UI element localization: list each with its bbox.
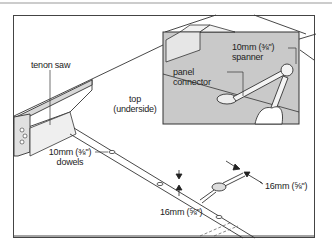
top-label-line2: (underside) — [105, 104, 165, 114]
top-label: top (underside) — [105, 94, 165, 114]
dimension-right-label: 16mm (⅝") — [265, 181, 307, 191]
panel-connector-label-line2: connector — [173, 77, 211, 87]
tenon-saw-label: tenon saw — [31, 60, 70, 70]
dimension-left-label: 16mm (⅝") — [160, 207, 202, 217]
dowels-label-line1: 10mm (⅜") — [44, 147, 96, 157]
spanner-label-line2: spanner — [232, 52, 274, 62]
spanner-label-line1: 10mm (⅜") — [232, 42, 274, 52]
panel-connector-label: panel connector — [173, 67, 211, 87]
dowels-label: 10mm (⅜") dowels — [44, 147, 96, 167]
top-label-line1: top — [105, 94, 165, 104]
panel-connector-label-line1: panel — [173, 67, 211, 77]
dowels-label-line2: dowels — [44, 157, 96, 167]
connector-recess — [200, 173, 245, 203]
spanner-label: 10mm (⅜") spanner — [232, 42, 274, 62]
tenon-saw-icon — [14, 70, 92, 156]
